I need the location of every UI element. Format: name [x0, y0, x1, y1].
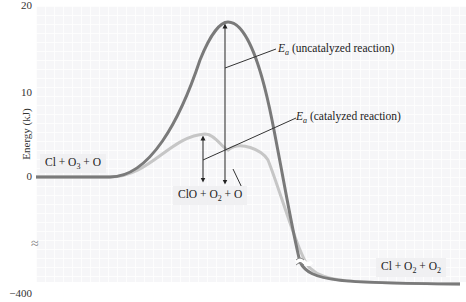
- uncatalyzed-curve: [36, 22, 460, 284]
- ea-uncatalyzed-leader: [225, 49, 276, 68]
- energy-diagram: [0, 0, 466, 302]
- products-label: Cl + O2 + O2: [376, 258, 446, 277]
- reactants-label: Cl + O3 + O: [40, 154, 106, 173]
- ea-uncatalyzed-label: Ea (uncatalyzed reaction): [278, 42, 394, 57]
- ea-catalyzed-label: Ea (catalyzed reaction): [296, 110, 401, 125]
- intermediate-label: ClO + O2 + O: [173, 186, 247, 205]
